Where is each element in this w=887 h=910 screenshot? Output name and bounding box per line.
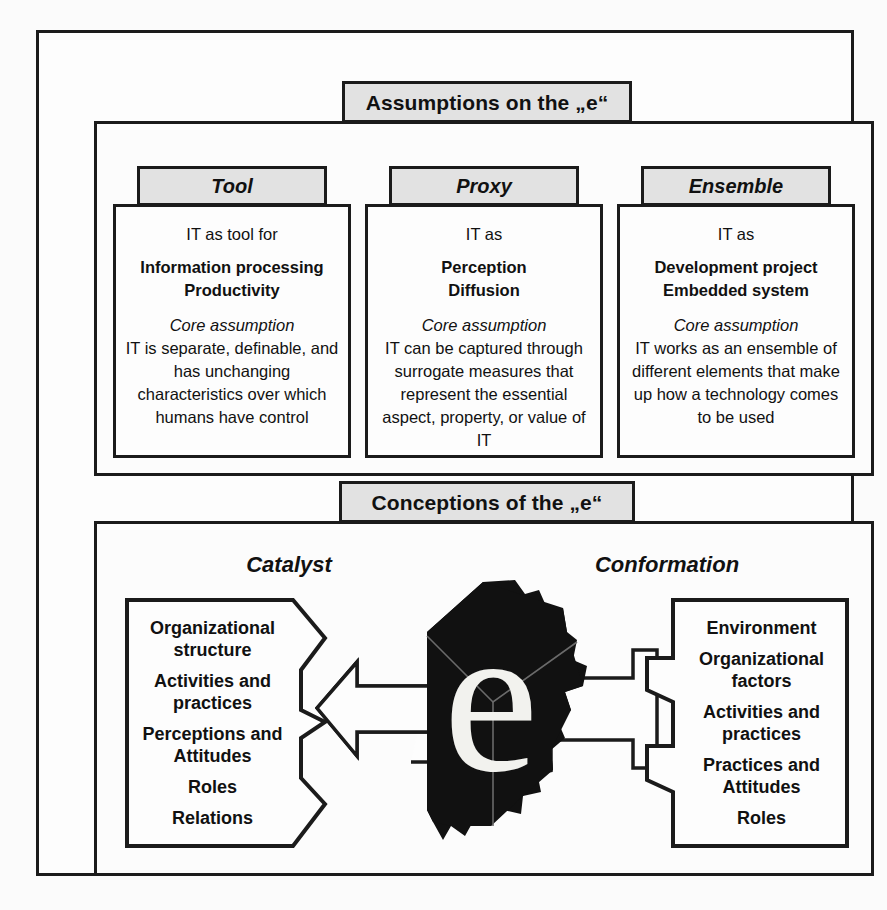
assumption-core-label: Core assumption	[629, 314, 843, 337]
assumption-column-proxy: Proxy IT as Perception Diffusion Core as…	[365, 166, 603, 458]
assumption-strong-line: Perception	[377, 256, 591, 279]
assumption-body-proxy: IT as Perception Diffusion Core assumpti…	[365, 204, 603, 458]
assumption-strong-line: Development project	[629, 256, 843, 279]
list-item: Environment	[680, 617, 843, 639]
list-item: Relations	[131, 807, 294, 829]
assumption-core-label: Core assumption	[125, 314, 339, 337]
list-item: Activities and practices	[131, 670, 294, 714]
assumptions-title-tab: Assumptions on the „e“	[342, 81, 632, 123]
assumption-column-ensemble: Ensemble IT as Development project Embed…	[617, 166, 855, 458]
assumptions-section-panel: Tool IT as tool for Information processi…	[94, 121, 874, 476]
assumption-lead: IT as	[629, 223, 843, 246]
assumption-strong-line: Productivity	[125, 279, 339, 302]
assumption-description: IT works as an ensemble of different ele…	[629, 337, 843, 429]
assumption-description: IT is separate, definable, and has uncha…	[125, 337, 339, 429]
assumption-strong-line: Information processing	[125, 256, 339, 279]
assumption-strong-line: Embedded system	[629, 279, 843, 302]
assumption-body-tool: IT as tool for Information processing Pr…	[113, 204, 351, 458]
diagram-root: Tool IT as tool for Information processi…	[0, 0, 887, 910]
assumption-tab-ensemble: Ensemble	[641, 166, 831, 206]
assumption-body-ensemble: IT as Development project Embedded syste…	[617, 204, 855, 458]
outer-frame: Tool IT as tool for Information processi…	[36, 30, 854, 876]
catalyst-list-box: Organizational structure Activities and …	[125, 598, 335, 848]
conformation-items: Environment Organizational factors Activ…	[674, 598, 849, 848]
list-item: Organizational factors	[680, 648, 843, 692]
list-item: Practices and Attitudes	[680, 754, 843, 798]
assumption-lead: IT as tool for	[125, 223, 339, 246]
catalyst-items: Organizational structure Activities and …	[125, 598, 300, 848]
list-item: Activities and practices	[680, 701, 843, 745]
list-item: Perceptions and Attitudes	[131, 723, 294, 767]
assumption-description: IT can be captured through surrogate mea…	[377, 337, 591, 452]
center-e-graphic: e	[315, 574, 659, 849]
assumption-tab-tool: Tool	[137, 166, 327, 206]
list-item: Organizational structure	[131, 617, 294, 661]
assumption-lead: IT as	[377, 223, 591, 246]
assumption-column-tool: Tool IT as tool for Information processi…	[113, 166, 351, 458]
assumption-strong-line: Diffusion	[377, 279, 591, 302]
center-e-cube-svg: e	[315, 574, 659, 849]
conceptions-section-panel: Catalyst Conformation Organizational str…	[94, 521, 874, 876]
assumption-core-label: Core assumption	[377, 314, 591, 337]
conceptions-title-tab: Conceptions of the „e“	[339, 481, 635, 523]
assumption-tab-proxy: Proxy	[389, 166, 579, 206]
list-item: Roles	[680, 807, 843, 829]
list-item: Roles	[131, 776, 294, 798]
conformation-list-box: Environment Organizational factors Activ…	[639, 598, 849, 848]
letter-e-glyph: e	[443, 578, 538, 817]
